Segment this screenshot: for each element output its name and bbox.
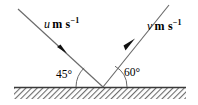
outgoing-velocity-symbol: v (147, 19, 153, 33)
incoming-velocity-exponent: −1 (70, 16, 79, 25)
ground-hatch-fill (14, 88, 186, 100)
incoming-velocity-label: um s−1 (44, 17, 79, 30)
angle-label-right: 60° (124, 67, 140, 79)
incoming-velocity-symbol: u (44, 17, 50, 31)
ground-surface (14, 88, 186, 100)
incoming-velocity-unit: m s (52, 17, 70, 31)
diagram-canvas (0, 0, 198, 105)
velocity-diagram: um s−1 vm s−1 45° 60° (0, 0, 198, 105)
angle-arc-left (76, 68, 84, 87)
outgoing-velocity-exponent: −1 (173, 18, 182, 27)
outgoing-velocity-label: vm s−1 (147, 19, 182, 32)
outgoing-velocity-unit: m s (155, 19, 173, 33)
angle-label-left: 45° (56, 69, 72, 81)
